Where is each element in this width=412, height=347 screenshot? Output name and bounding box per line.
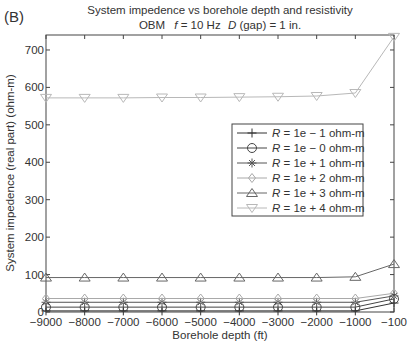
- legend-r-symbol: R: [272, 172, 280, 184]
- series-line: [46, 296, 394, 302]
- legend-r-symbol: R: [272, 202, 280, 214]
- x-axis-label: Borehole depth (ft): [172, 329, 267, 341]
- y-tick-label: 400: [25, 156, 44, 168]
- chart-title: System impedence vs borehole depth and r…: [87, 4, 353, 16]
- series-3: [43, 289, 398, 303]
- series-line: [46, 264, 394, 277]
- legend-r-symbol: R: [272, 157, 280, 169]
- legend: R = 1e − 1 ohm-mR = 1e − 0 ohm-mR = 1e +…: [232, 124, 365, 216]
- y-tick-label: 500: [25, 119, 44, 131]
- subtitle-d-symbol: D: [228, 19, 236, 31]
- x-tick-label: −100: [381, 316, 407, 328]
- series-line: [46, 299, 394, 307]
- legend-label: R = 1e − 1 ohm-m: [272, 127, 365, 139]
- legend-r-text: = 1e + 2 ohm-m: [280, 172, 364, 184]
- subtitle-f-text: = 10 Hz: [178, 19, 221, 31]
- series-line: [46, 37, 394, 98]
- series-1: [42, 294, 399, 311]
- subtitle-prefix: OBM: [139, 19, 165, 31]
- y-tick-label: 300: [25, 194, 44, 206]
- x-tick-label: −7000: [107, 316, 139, 328]
- panel-label: (B): [4, 8, 24, 25]
- chart: (B) System impedence vs borehole depth a…: [0, 0, 412, 347]
- y-tick-label: 600: [25, 81, 44, 93]
- legend-label: R = 1e + 4 ohm-m: [272, 202, 365, 214]
- series-4: [41, 260, 400, 281]
- x-tick-label: −4000: [223, 316, 255, 328]
- y-tick-label: 100: [25, 269, 44, 281]
- y-axis-label: System impedence (real part) (ohm-m): [4, 74, 16, 272]
- x-tick-label: −9000: [30, 316, 62, 328]
- legend-r-text: = 1e + 1 ohm-m: [280, 157, 364, 169]
- legend-label: R = 1e − 0 ohm-m: [272, 142, 365, 154]
- series-2: [42, 291, 399, 306]
- legend-r-symbol: R: [272, 142, 280, 154]
- y-tick-label: 200: [25, 231, 44, 243]
- x-tick-label: −5000: [185, 316, 217, 328]
- x-tick-label: −8000: [69, 316, 101, 328]
- chart-subtitle: OBM f = 10 Hz D (gap) = 1 in.: [139, 19, 301, 31]
- legend-r-text: = 1e + 3 ohm-m: [280, 187, 364, 199]
- legend-label: R = 1e + 1 ohm-m: [272, 157, 365, 169]
- x-tick-label: −6000: [146, 316, 178, 328]
- x-tick-label: −2000: [301, 316, 333, 328]
- legend-r-text: = 1e − 0 ohm-m: [280, 142, 364, 154]
- legend-label: R = 1e + 3 ohm-m: [272, 187, 365, 199]
- x-tick-label: −3000: [262, 316, 294, 328]
- subtitle-d-text: (gap) = 1 in.: [236, 19, 301, 31]
- legend-r-text: = 1e − 1 ohm-m: [280, 127, 364, 139]
- series-5: [41, 33, 400, 102]
- legend-r-text: = 1e + 4 ohm-m: [280, 202, 364, 214]
- y-tick-label: 700: [25, 44, 44, 56]
- series-line: [46, 293, 394, 298]
- legend-r-symbol: R: [272, 187, 280, 199]
- legend-label: R = 1e + 2 ohm-m: [272, 172, 365, 184]
- legend-r-symbol: R: [272, 127, 280, 139]
- x-tick-label: −1000: [339, 316, 371, 328]
